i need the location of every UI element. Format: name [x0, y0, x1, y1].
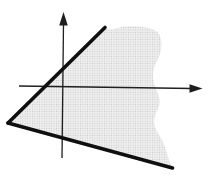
x-axis-arrowhead — [190, 84, 203, 92]
figure-canvas — [0, 0, 211, 177]
coordinate-diagram — [0, 0, 211, 177]
y-axis-arrowhead — [59, 12, 68, 26]
